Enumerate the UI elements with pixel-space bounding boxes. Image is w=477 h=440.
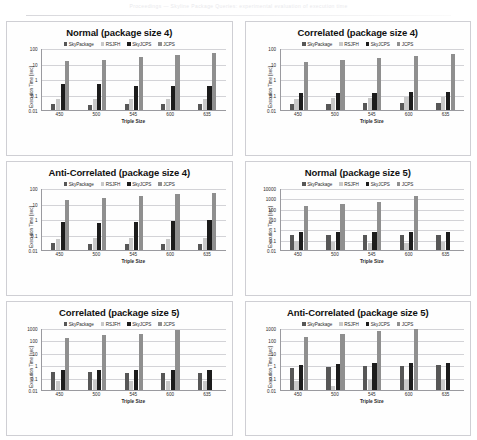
bar-rsjfh[interactable] <box>441 380 445 390</box>
bar-jcps[interactable] <box>340 334 344 390</box>
bar-skypackage[interactable] <box>88 372 92 390</box>
bar-skyjcps[interactable] <box>409 363 413 390</box>
bar-skypackage[interactable] <box>125 244 129 250</box>
bar-jcps[interactable] <box>102 335 106 390</box>
bar-skyjcps[interactable] <box>207 220 211 250</box>
bar-skyjcps[interactable] <box>134 86 138 110</box>
legend-item-jcps[interactable]: JCPS <box>397 322 414 327</box>
bar-jcps[interactable] <box>212 53 216 110</box>
bar-jcps[interactable] <box>304 62 308 110</box>
bar-skypackage[interactable] <box>198 104 202 110</box>
bar-skypackage[interactable] <box>161 373 165 390</box>
bar-jcps[interactable] <box>212 193 216 250</box>
bar-rsjfh[interactable] <box>203 99 207 110</box>
bar-rsjfh[interactable] <box>129 238 133 250</box>
bar-skypackage[interactable] <box>326 367 330 390</box>
bar-jcps[interactable] <box>377 58 381 110</box>
bar-skypackage[interactable] <box>363 366 367 390</box>
bar-skyjcps[interactable] <box>61 84 65 110</box>
bar-jcps[interactable] <box>414 56 418 110</box>
legend-item-rsjfh[interactable]: RSJFH <box>101 182 121 187</box>
bar-skypackage[interactable] <box>198 373 202 390</box>
bar-jcps[interactable] <box>139 196 143 250</box>
legend-item-skyjcps[interactable]: SkyJCPS <box>127 322 151 327</box>
legend-item-skyjcps[interactable]: SkyJCPS <box>127 42 151 47</box>
legend-item-skyjcps[interactable]: SkyJCPS <box>366 42 390 47</box>
bar-jcps[interactable] <box>175 55 179 110</box>
bar-skypackage[interactable] <box>363 103 367 110</box>
bar-skyjcps[interactable] <box>171 221 175 250</box>
bar-rsjfh[interactable] <box>404 97 408 110</box>
bar-skypackage[interactable] <box>326 235 330 250</box>
bar-rsjfh[interactable] <box>331 98 335 110</box>
bar-jcps[interactable] <box>377 331 381 390</box>
legend-item-skypackage[interactable]: SkyPackage <box>302 42 332 47</box>
bar-jcps[interactable] <box>340 204 344 250</box>
bar-skypackage[interactable] <box>436 365 440 390</box>
bar-jcps[interactable] <box>377 202 381 250</box>
bar-skyjcps[interactable] <box>207 86 211 110</box>
bar-skyjcps[interactable] <box>336 364 340 390</box>
bar-skyjcps[interactable] <box>61 222 65 250</box>
bar-rsjfh[interactable] <box>441 97 445 110</box>
bar-skyjcps[interactable] <box>61 370 65 390</box>
bar-skyjcps[interactable] <box>409 92 413 110</box>
legend-item-skyjcps[interactable]: SkyJCPS <box>366 182 390 187</box>
bar-skypackage[interactable] <box>290 235 294 250</box>
bar-jcps[interactable] <box>414 329 418 390</box>
bar-skypackage[interactable] <box>400 103 404 110</box>
bar-rsjfh[interactable] <box>368 380 372 390</box>
bar-rsjfh[interactable] <box>166 239 170 250</box>
bar-skyjcps[interactable] <box>299 365 303 390</box>
legend-item-jcps[interactable]: JCPS <box>158 322 175 327</box>
legend-item-skyjcps[interactable]: SkyJCPS <box>127 182 151 187</box>
legend-item-skypackage[interactable]: SkyPackage <box>302 182 332 187</box>
bar-rsjfh[interactable] <box>56 99 60 110</box>
bar-skyjcps[interactable] <box>372 93 376 110</box>
bar-skyjcps[interactable] <box>336 93 340 110</box>
bar-rsjfh[interactable] <box>56 239 60 250</box>
bar-skyjcps[interactable] <box>97 370 101 390</box>
bar-skypackage[interactable] <box>88 244 92 250</box>
bar-skyjcps[interactable] <box>446 363 450 390</box>
bar-rsjfh[interactable] <box>129 381 133 390</box>
legend-item-rsjfh[interactable]: RSJFH <box>339 182 359 187</box>
legend-item-rsjfh[interactable]: RSJFH <box>101 42 121 47</box>
legend-item-jcps[interactable]: JCPS <box>158 42 175 47</box>
legend-item-jcps[interactable]: JCPS <box>397 182 414 187</box>
bar-skypackage[interactable] <box>198 244 202 250</box>
bar-rsjfh[interactable] <box>404 380 408 390</box>
bar-jcps[interactable] <box>451 54 455 110</box>
bar-skypackage[interactable] <box>161 104 165 110</box>
bar-skypackage[interactable] <box>51 372 55 390</box>
bar-jcps[interactable] <box>340 60 344 110</box>
legend-item-jcps[interactable]: JCPS <box>397 42 414 47</box>
bar-jcps[interactable] <box>139 334 143 390</box>
bar-rsjfh[interactable] <box>294 99 298 110</box>
bar-skyjcps[interactable] <box>207 370 211 390</box>
bar-skyjcps[interactable] <box>171 86 175 110</box>
bar-rsjfh[interactable] <box>404 243 408 250</box>
bar-skyjcps[interactable] <box>446 92 450 110</box>
bar-rsjfh[interactable] <box>294 241 298 250</box>
bar-rsjfh[interactable] <box>441 242 445 250</box>
bar-skyjcps[interactable] <box>446 232 450 250</box>
legend-item-skypackage[interactable]: SkyPackage <box>64 182 94 187</box>
bar-rsjfh[interactable] <box>331 386 335 390</box>
bar-jcps[interactable] <box>102 198 106 250</box>
bar-skyjcps[interactable] <box>299 232 303 250</box>
bar-rsjfh[interactable] <box>368 98 372 110</box>
legend-item-skypackage[interactable]: SkyPackage <box>64 42 94 47</box>
bar-jcps[interactable] <box>304 337 308 390</box>
bar-skypackage[interactable] <box>290 104 294 110</box>
legend-item-rsjfh[interactable]: RSJFH <box>339 42 359 47</box>
bar-skypackage[interactable] <box>125 104 129 110</box>
bar-skypackage[interactable] <box>436 103 440 110</box>
bar-rsjfh[interactable] <box>331 242 335 250</box>
legend-item-skypackage[interactable]: SkyPackage <box>302 322 332 327</box>
legend-item-rsjfh[interactable]: RSJFH <box>339 322 359 327</box>
bar-skypackage[interactable] <box>436 235 440 250</box>
bar-skyjcps[interactable] <box>372 232 376 250</box>
bar-rsjfh[interactable] <box>93 380 97 390</box>
bar-jcps[interactable] <box>175 330 179 390</box>
